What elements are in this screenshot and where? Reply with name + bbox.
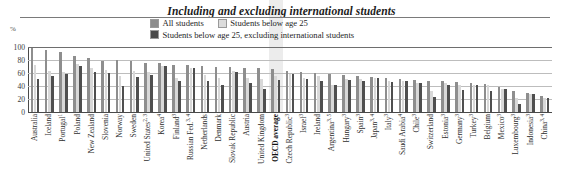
y-axis-unit-label: % <box>10 25 16 33</box>
bar-group[interactable] <box>255 47 269 112</box>
bar-group[interactable] <box>269 47 283 112</box>
x-axis-label: Korea4 <box>155 114 169 192</box>
bar-group[interactable] <box>368 47 382 112</box>
bar <box>419 83 422 112</box>
bar <box>547 98 550 112</box>
legend-label-below-25: Students below age 25 <box>230 18 308 29</box>
bar-group[interactable] <box>382 47 396 112</box>
x-axis-label: New Zealand <box>85 114 99 192</box>
bar-group[interactable] <box>198 47 212 112</box>
bar-group[interactable] <box>311 47 325 112</box>
bar-group[interactable] <box>70 47 84 112</box>
plot-area: 020406080100 <box>28 47 552 112</box>
x-axis-label: Chile3 <box>410 114 424 192</box>
bar <box>391 82 394 112</box>
x-axis-label: Denmark <box>212 114 226 192</box>
x-axis-label: Luxembourg3 <box>509 114 523 192</box>
x-axis-label: Belgium <box>481 114 495 192</box>
chart-container: Including and excluding international st… <box>0 0 563 192</box>
page-title: Including and excluding international st… <box>167 5 395 17</box>
bar-group[interactable] <box>127 47 141 112</box>
bar-group[interactable] <box>439 47 453 112</box>
bar <box>433 97 436 112</box>
all-students-swatch-icon <box>150 19 159 28</box>
bar <box>235 72 238 112</box>
bar-group[interactable] <box>339 47 353 112</box>
bar-group[interactable] <box>467 47 481 112</box>
x-axis-label: Sweden <box>127 114 141 192</box>
bar-group[interactable] <box>354 47 368 112</box>
bar <box>136 77 139 112</box>
bar-group[interactable] <box>523 47 537 112</box>
legend-row-1: All students Students below age 25 <box>150 18 450 29</box>
bar-group[interactable] <box>538 47 552 112</box>
legend-row-2: Students below age 25, excluding interna… <box>150 30 450 41</box>
bar <box>362 81 365 112</box>
legend-item-below-25: Students below age 25 <box>218 18 308 29</box>
bar-group[interactable] <box>155 47 169 112</box>
x-axis-label: China3, 4 <box>538 114 552 192</box>
bar <box>79 66 82 112</box>
bar-group[interactable] <box>85 47 99 112</box>
bar-group[interactable] <box>240 47 254 112</box>
bar-group[interactable] <box>184 47 198 112</box>
bar-group[interactable] <box>325 47 339 112</box>
bar <box>348 80 351 113</box>
y-tick-label-20: 20 <box>17 95 25 104</box>
y-tick-label-80: 80 <box>17 56 25 65</box>
bar <box>447 85 450 112</box>
bar-group[interactable] <box>495 47 509 112</box>
x-axis-label: Iceland <box>42 114 56 192</box>
bar-group[interactable] <box>99 47 113 112</box>
bar-groups <box>28 47 552 112</box>
bar-group[interactable] <box>297 47 311 112</box>
bar-group[interactable] <box>28 47 42 112</box>
x-axis-label: Italy3 <box>382 114 396 192</box>
bar-group[interactable] <box>113 47 127 112</box>
bar <box>94 72 97 112</box>
bar <box>221 85 224 112</box>
bar <box>37 79 40 112</box>
x-axis-label: Japan3, 4 <box>368 114 382 192</box>
bar <box>306 79 309 112</box>
bar-group[interactable] <box>56 47 70 112</box>
x-axis-label: Spain3 <box>354 114 368 192</box>
bar <box>51 76 54 112</box>
x-axis-label: Finland3 <box>170 114 184 192</box>
x-axis-label: United States2, 3 <box>141 114 155 192</box>
bar-group[interactable] <box>410 47 424 112</box>
bar-group[interactable] <box>212 47 226 112</box>
x-axis-label: Germany3 <box>453 114 467 192</box>
bar-group[interactable] <box>170 47 184 112</box>
x-axis-label: Portugal1 <box>56 114 70 192</box>
bar-group[interactable] <box>509 47 523 112</box>
bar-group[interactable] <box>141 47 155 112</box>
bar-group[interactable] <box>283 47 297 112</box>
bar-group[interactable] <box>226 47 240 112</box>
x-axis-label: Slovak Republic <box>226 114 240 192</box>
legend-label-below-25-excl-intl: Students below age 25, excluding interna… <box>163 30 355 41</box>
bar <box>334 85 337 112</box>
bar-group[interactable] <box>424 47 438 112</box>
legend-item-below-25-excl-intl: Students below age 25, excluding interna… <box>150 30 354 41</box>
chart-legend: All students Students below age 25 Stude… <box>150 18 450 40</box>
bar-group[interactable] <box>481 47 495 112</box>
bar-group[interactable] <box>42 47 56 112</box>
bar-group[interactable] <box>396 47 410 112</box>
x-axis-label: Hungary3 <box>339 114 353 192</box>
bar <box>292 74 295 112</box>
x-axis-label: United Kingdom <box>255 114 269 192</box>
x-axis-label: Slovenia <box>99 114 113 192</box>
x-axis-label: Mexico3 <box>495 114 509 192</box>
bar <box>207 81 210 112</box>
x-axis-label: Poland <box>70 114 84 192</box>
y-tick-label-40: 40 <box>17 82 25 91</box>
bar <box>504 89 507 112</box>
bar <box>249 83 252 112</box>
bar <box>320 81 323 112</box>
legend-label-all-students: All students <box>163 18 204 29</box>
x-axis-label: Netherlands <box>198 114 212 192</box>
bar <box>193 68 196 112</box>
bar <box>108 73 111 112</box>
bar-group[interactable] <box>453 47 467 112</box>
